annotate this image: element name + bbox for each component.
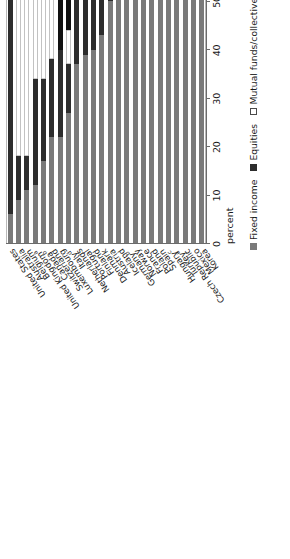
bar-segment-fixed — [133, 0, 138, 243]
bar-row — [24, 0, 29, 243]
legend-label: Mutual funds/collective investment schem… — [248, 0, 259, 105]
category-axis-labels: United StatesAustraliaBelgiumUnited King… — [0, 244, 206, 290]
bar-segment-mutual — [49, 0, 54, 59]
bar-segment-fixed — [191, 0, 196, 243]
bar-segment-equities — [49, 59, 54, 136]
bar-segment-fixed — [166, 0, 171, 243]
bar-row — [74, 0, 79, 243]
bar-segment-equities — [83, 0, 88, 55]
bar-segment-equities — [108, 0, 113, 2]
bar-segment-equities — [24, 156, 29, 190]
legend-item[interactable]: Mutual funds/collective investment schem… — [248, 0, 259, 115]
bar-segment-fixed — [33, 185, 38, 243]
legend-swatch-icon — [250, 108, 257, 115]
bar-row — [83, 0, 88, 243]
legend-item[interactable]: Fixed income — [248, 180, 259, 250]
bar-segment-fixed — [66, 113, 71, 243]
bar-segment-other — [58, 0, 63, 50]
bar-row — [16, 0, 21, 243]
bar-segment-fixed — [74, 64, 79, 243]
bar-segment-equities — [41, 79, 46, 161]
bar-row — [183, 0, 188, 243]
bar-segment-fixed — [199, 0, 204, 243]
chart-legend: Fixed incomeEquitiesMutual funds/collect… — [248, 0, 259, 250]
bar-segment-mutual — [41, 0, 46, 79]
legend-item[interactable]: Equities — [248, 124, 259, 171]
bar-row — [191, 0, 196, 243]
axis-tick-label: 50 — [211, 0, 222, 8]
bar-segment-fixed — [158, 0, 163, 243]
bar-row — [166, 0, 171, 243]
axis-tick-label: 40 — [211, 45, 222, 57]
bar-row — [49, 0, 54, 243]
bar-segment-fixed — [124, 0, 129, 243]
bar-segment-fixed — [108, 2, 113, 244]
bar-segment-mutual — [24, 0, 29, 156]
bar-segment-equities — [58, 50, 63, 137]
bar-row — [66, 0, 71, 243]
bar-segment-fixed — [58, 137, 63, 243]
value-axis-line — [206, 0, 207, 244]
bar-segment-equities — [33, 79, 38, 185]
bar-segment-equities — [66, 64, 71, 112]
axis-tick — [206, 146, 210, 147]
axis-tick — [206, 243, 210, 244]
bar-row — [116, 0, 121, 243]
bar-segment-fixed — [91, 50, 96, 243]
axis-tick — [206, 1, 210, 2]
bar-segment-fixed — [24, 190, 29, 243]
axis-title: percent — [224, 208, 235, 244]
bar-row — [141, 0, 146, 243]
axis-tick-label: 10 — [211, 190, 222, 202]
bar-segment-mutual — [16, 0, 21, 156]
stacked-bar-chart: United StatesAustraliaBelgiumUnited King… — [0, 0, 290, 290]
bar-segment-fixed — [99, 35, 104, 243]
bar-segment-mutual — [66, 30, 71, 64]
rotated-figure-wrapper: United StatesAustraliaBelgiumUnited King… — [0, 0, 290, 290]
bar-segment-fixed — [83, 55, 88, 243]
bar-segment-equities — [99, 0, 104, 35]
bar-row — [158, 0, 163, 243]
bar-row — [33, 0, 38, 243]
axis-tick-label: 20 — [211, 141, 222, 153]
legend-swatch-icon — [250, 244, 257, 251]
axis-tick-label: 30 — [211, 93, 222, 105]
bar-segment-equities — [74, 0, 79, 64]
bar-segment-fixed — [116, 0, 121, 243]
bar-row — [99, 0, 104, 243]
plot-area — [6, 0, 206, 244]
bar-row — [41, 0, 46, 243]
bar-row — [149, 0, 154, 243]
bar-segment-equities — [91, 0, 96, 50]
bar-segment-fixed — [149, 0, 154, 243]
axis-tick — [206, 98, 210, 99]
bar-segment-mutual — [33, 0, 38, 79]
bar-segment-fixed — [141, 0, 146, 243]
bar-segment-other — [66, 0, 71, 30]
legend-label: Fixed income — [248, 180, 259, 240]
bar-segment-fixed — [16, 200, 21, 243]
bar-segment-fixed — [49, 137, 54, 243]
bar-row — [8, 0, 13, 243]
legend-label: Equities — [248, 124, 259, 161]
bar-row — [124, 0, 129, 243]
legend-swatch-icon — [250, 164, 257, 171]
bar-segment-equities — [16, 156, 21, 199]
bar-segment-fixed — [8, 214, 13, 243]
bar-row — [199, 0, 204, 243]
axis-tick-label: 0 — [211, 241, 222, 247]
axis-tick — [206, 49, 210, 50]
bar-row — [133, 0, 138, 243]
axis-tick — [206, 195, 210, 196]
bar-row — [91, 0, 96, 243]
bar-row — [108, 0, 113, 243]
bar-segment-fixed — [183, 0, 188, 243]
bar-segment-fixed — [174, 0, 179, 243]
bar-row — [58, 0, 63, 243]
bar-segment-fixed — [41, 161, 46, 243]
bar-row — [174, 0, 179, 243]
bar-segment-equities — [8, 0, 13, 214]
